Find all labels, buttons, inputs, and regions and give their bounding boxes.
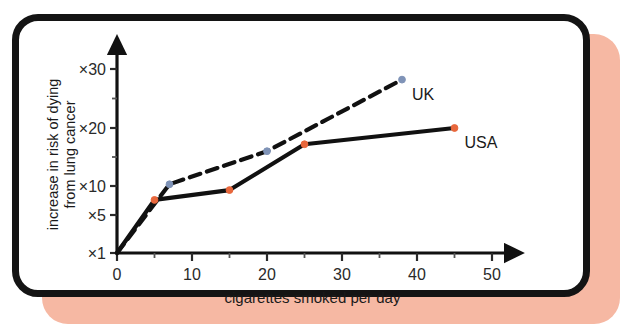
series-marker-usa <box>151 197 158 204</box>
series-line-uk <box>117 80 402 253</box>
y-axis-title-line1: increase in risk of dying <box>45 79 61 231</box>
x-tick-label: 30 <box>333 266 351 283</box>
y-tick-label: ×20 <box>79 120 106 137</box>
y-axis-title-line2: from lung cancer <box>62 100 78 208</box>
x-tick-label: 0 <box>113 266 122 283</box>
series-line-usa <box>117 128 455 253</box>
series-marker-uk <box>399 76 406 83</box>
series-marker-uk <box>166 181 173 188</box>
y-tick-label: ×5 <box>88 207 106 224</box>
series-marker-usa <box>451 125 458 132</box>
series-marker-usa <box>301 141 308 148</box>
x-tick-label: 50 <box>483 266 501 283</box>
x-axis-title: cigarettes smoked per day <box>225 289 401 306</box>
series-label-uk: UK <box>412 86 435 103</box>
chart-plot-area: ×1×5×10×20×3001020304050cigarettes smoke… <box>0 0 625 329</box>
y-axis-title: increase in risk of dyingfrom lung cance… <box>45 79 78 231</box>
y-tick-label: ×1 <box>88 245 106 262</box>
x-tick-label: 10 <box>183 266 201 283</box>
series-marker-usa <box>226 187 233 194</box>
y-tick-label: ×10 <box>79 178 106 195</box>
y-tick-label: ×30 <box>79 61 106 78</box>
x-tick-label: 20 <box>258 266 276 283</box>
x-tick-label: 40 <box>408 266 426 283</box>
series-marker-uk <box>264 148 271 155</box>
series-label-usa: USA <box>465 134 498 151</box>
chart-page: ×1×5×10×20×3001020304050cigarettes smoke… <box>0 0 625 329</box>
